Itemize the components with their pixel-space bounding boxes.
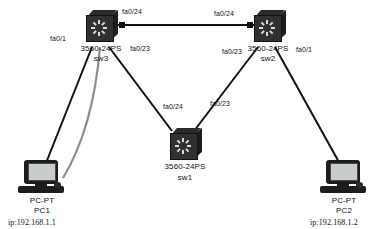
switch-arrows-hub bbox=[179, 142, 187, 150]
device-name-sw2: sw2 bbox=[246, 54, 290, 63]
port-label-sw1-to-sw2: fa0/23 bbox=[210, 100, 230, 107]
port-label-sw2-top-trunk: fa0/24 bbox=[214, 10, 234, 17]
switch-arrows-hub bbox=[263, 24, 271, 32]
pc-monitor bbox=[24, 160, 58, 184]
switch-icon[interactable] bbox=[84, 10, 118, 42]
device-model-pc2: PC-PT bbox=[318, 196, 370, 205]
link-dot-sw3-trunk bbox=[119, 22, 125, 28]
pc-mouse-icon bbox=[356, 182, 363, 188]
device-ip-pc2: ip:192.168.1.2 bbox=[310, 218, 358, 227]
switch-icon[interactable] bbox=[252, 10, 286, 42]
switch-arrows-hub bbox=[95, 24, 103, 32]
switch-arrows-glyph bbox=[175, 138, 191, 154]
pc-screen bbox=[330, 163, 358, 181]
port-label-sw3-top-trunk: fa0/24 bbox=[122, 8, 142, 15]
switch-arrows-glyph bbox=[91, 20, 107, 36]
pc-monitor bbox=[326, 160, 360, 184]
port-label-sw3-to-pc1: fa0/1 bbox=[50, 35, 66, 42]
pc-mouse-icon bbox=[54, 182, 61, 188]
device-name-pc1: PC1 bbox=[20, 206, 64, 215]
port-label-sw3-to-sw1: fa0/23 bbox=[130, 45, 150, 52]
device-model-sw2: 3560-24PS bbox=[240, 44, 296, 53]
pc-icon[interactable] bbox=[320, 160, 368, 194]
port-label-sw1-to-sw3: fa0/24 bbox=[163, 103, 183, 110]
link-sw2-pc2 bbox=[275, 47, 340, 164]
device-name-sw3: sw3 bbox=[79, 54, 123, 63]
device-name-sw1: sw1 bbox=[163, 173, 207, 182]
link-sw3-pc1-highlight bbox=[63, 47, 100, 178]
port-label-sw2-to-pc2: fa0/1 bbox=[296, 46, 312, 53]
device-model-pc1: PC-PT bbox=[16, 196, 68, 205]
pc-screen bbox=[28, 163, 56, 181]
device-ip-pc1: ip:192.168.1.1 bbox=[8, 218, 56, 227]
switch-icon[interactable] bbox=[168, 128, 202, 160]
pc-icon[interactable] bbox=[18, 160, 66, 194]
port-label-sw2-to-sw1: fa0/23 bbox=[222, 48, 242, 55]
switch-arrows-glyph bbox=[259, 20, 275, 36]
device-name-pc2: PC2 bbox=[322, 206, 366, 215]
device-model-sw3: 3560-24PS bbox=[73, 44, 129, 53]
link-sw3-pc1 bbox=[46, 47, 92, 163]
network-topology-canvas: 3560-24PS sw3 3560-24PS sw2 3560-24PS sw… bbox=[0, 0, 392, 229]
device-model-sw1: 3560-24PS bbox=[156, 162, 214, 171]
